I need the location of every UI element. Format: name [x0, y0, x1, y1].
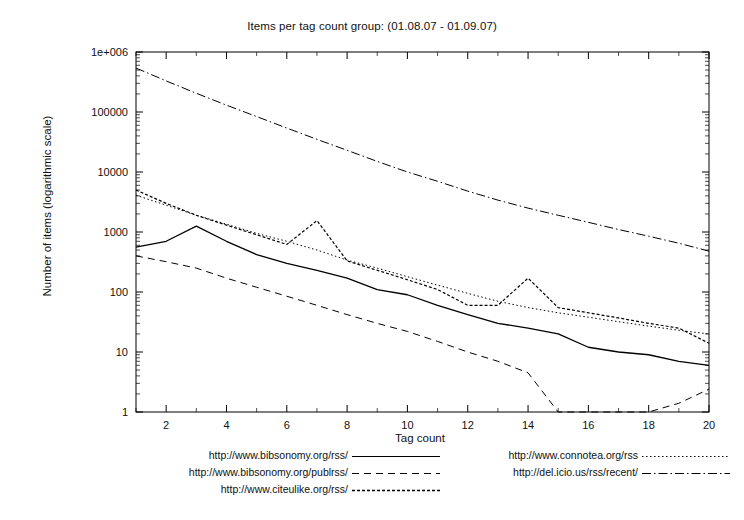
series-line-3 [136, 195, 709, 334]
legend-swatch-dotted [642, 455, 730, 456]
chart-legend: http://www.bibsonomy.org/rss/ http://www… [120, 447, 730, 507]
legend-column-left: http://www.bibsonomy.org/rss/ http://www… [130, 447, 440, 498]
series-line-0 [136, 226, 709, 365]
legend-item: http://www.connotea.org/rss [465, 447, 730, 464]
axis-tick-label: 10 [116, 346, 128, 358]
axis-tick-label: 14 [522, 419, 534, 431]
legend-item: http://del.icio.us/rss/recent/ [465, 464, 730, 481]
legend-swatch-dashed [352, 472, 440, 473]
legend-item: http://www.bibsonomy.org/rss/ [130, 447, 440, 464]
axis-tick-label: 18 [643, 419, 655, 431]
legend-label: http://www.connotea.org/rss [508, 447, 638, 464]
plot-frame [136, 52, 709, 412]
legend-label: http://del.icio.us/rss/recent/ [513, 464, 638, 481]
legend-label: http://www.bibsonomy.org/rss/ [209, 447, 348, 464]
axis-tick-label: 10000 [97, 166, 128, 178]
axis-tick-label: 100 [110, 286, 128, 298]
axis-tick-label: 6 [284, 419, 290, 431]
legend-label: http://www.citeulike.org/rss/ [221, 481, 348, 498]
axis-tick-label: 1000 [104, 226, 128, 238]
series-line-1 [136, 256, 709, 412]
legend-swatch-dotted-dense [352, 489, 440, 490]
axis-tick-label: 2 [163, 419, 169, 431]
legend-item: http://www.citeulike.org/rss/ [130, 481, 440, 498]
legend-item: http://www.bibsonomy.org/publrss/ [130, 464, 440, 481]
axis-tick-label: 1e+006 [91, 46, 128, 58]
legend-column-right: http://www.connotea.org/rss http://del.i… [465, 447, 730, 481]
chart-container: Items per tag count group: (01.08.07 - 0… [0, 0, 744, 520]
legend-swatch-solid [352, 455, 440, 456]
legend-label: http://www.bibsonomy.org/publrss/ [189, 464, 348, 481]
axis-tick-label: 16 [582, 419, 594, 431]
axis-tick-label: 12 [462, 419, 474, 431]
plot-area: 1101001000100001000001e+0062468101214161… [0, 0, 744, 520]
axis-tick-label: 20 [703, 419, 715, 431]
axis-tick-label: 100000 [91, 106, 128, 118]
axis-tick-label: 4 [223, 419, 229, 431]
series-line-2 [136, 190, 709, 343]
legend-swatch-dash-dot [642, 472, 730, 473]
axis-tick-label: 1 [122, 406, 128, 418]
axis-tick-label: 8 [344, 419, 350, 431]
axis-tick-label: 10 [401, 419, 413, 431]
